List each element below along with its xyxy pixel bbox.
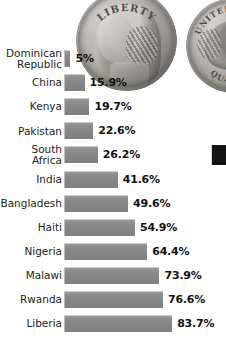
bar-category-label: Pakistan [0, 126, 64, 137]
svg-text:UNITED STATES: UNITED STATES [193, 3, 226, 36]
liberty-text: LIBERTY [95, 2, 158, 23]
bar-value-label: 54.9% [140, 221, 177, 234]
bar-category-label: India [0, 174, 64, 185]
bar-category-label: Kenya [0, 101, 64, 112]
bar-row: Bangladesh49.6% [0, 195, 226, 212]
bar-category-label: China [0, 77, 64, 88]
bar-row: Rwanda76.6% [0, 291, 226, 308]
bar-category-label: Liberia [0, 318, 64, 329]
bar-row: India41.6% [0, 171, 226, 188]
bar-value-label: 64.4% [152, 245, 189, 258]
bar-value-label: 19.7% [94, 100, 131, 113]
bar-category-label: South Africa [0, 144, 64, 165]
bar-value-label: 76.6% [168, 293, 205, 306]
bar [64, 195, 128, 212]
bar-value-label: 5% [75, 52, 93, 65]
chart-container: LIBERTY UNITED [0, 0, 226, 357]
bar-value-label: 73.9% [164, 269, 201, 282]
svg-text:LIBERTY: LIBERTY [95, 2, 158, 23]
bar-row: Dominican Republic5% [0, 50, 226, 67]
bar [64, 50, 70, 67]
bar-row: Kenya19.7% [0, 98, 226, 115]
bar-row: China15.9% [0, 74, 226, 91]
bar-value-label: 26.2% [103, 148, 140, 161]
bar-value-label: 41.6% [123, 173, 160, 186]
bar-row: Liberia83.7% [0, 315, 226, 332]
bar-value-label: 22.6% [98, 124, 135, 137]
bar-value-label: 49.6% [133, 197, 170, 210]
bar [64, 146, 98, 163]
bar [64, 74, 85, 91]
bar-value-label: 83.7% [177, 317, 214, 330]
bar-category-label: Bangladesh [0, 198, 64, 209]
bar-row: Pakistan22.6% [0, 122, 226, 139]
bar [64, 291, 163, 308]
bar-category-label: Malawi [0, 270, 64, 281]
bar [64, 219, 135, 236]
bar-category-label: Rwanda [0, 294, 64, 305]
bar [64, 315, 172, 332]
bar-row: Haiti54.9% [0, 219, 226, 236]
bar-row: Malawi73.9% [0, 267, 226, 284]
bar-value-label: 15.9% [90, 76, 127, 89]
bar [64, 243, 147, 260]
bar [64, 98, 89, 115]
bar [64, 267, 159, 284]
bar [64, 171, 118, 188]
bar-category-label: Nigeria [0, 246, 64, 257]
bar [64, 122, 93, 139]
bar-category-label: Dominican Republic [0, 48, 64, 70]
bar-row: Nigeria64.4% [0, 243, 226, 260]
bar-category-label: Haiti [0, 222, 64, 233]
bar-row: South Africa26.2% [0, 146, 226, 163]
united-states-text: UNITED STATES [193, 3, 226, 36]
